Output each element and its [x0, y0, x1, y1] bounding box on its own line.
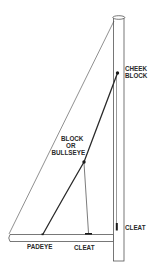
rigging-diagram: CHEEK BLOCK BLOCK OR BULLSEYE PADEYE CLE…	[0, 0, 163, 270]
boom	[9, 235, 114, 242]
block-label-line2: OR	[66, 142, 76, 149]
block-label-line3: BULLSEYE	[52, 149, 86, 156]
bullseye-block-icon	[82, 160, 85, 163]
padeye-label: PADEYE	[27, 243, 52, 250]
downhaul-line	[84, 163, 89, 233]
mast-cleat-label: CLEAT	[125, 224, 146, 231]
mast-cleat-icon	[116, 223, 118, 231]
masthead-cap	[113, 16, 125, 20]
padeye-icon	[42, 234, 44, 236]
mast	[113, 16, 125, 261]
cheek-block-label-line2: BLOCK	[125, 72, 148, 79]
boom-cleat-icon	[85, 233, 92, 235]
block-label-line1: BLOCK	[61, 135, 84, 142]
boom-cleat-label: CLEAT	[74, 244, 95, 251]
cheek-block-label-line1: CHEEK	[125, 65, 147, 72]
cheek-block-icon	[116, 71, 119, 74]
